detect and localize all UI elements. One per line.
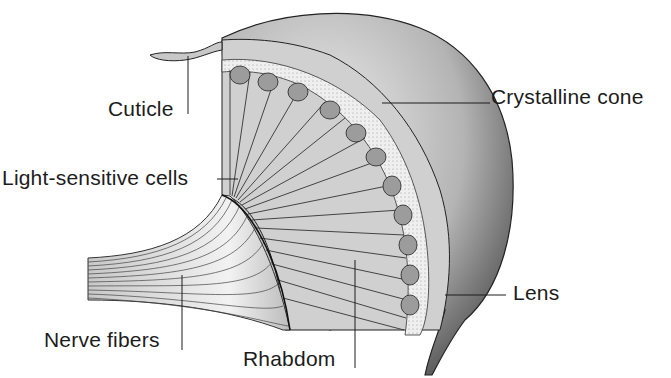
- label-crystalline-cone: Crystalline cone: [491, 86, 644, 107]
- eye-illustration: [0, 0, 671, 378]
- label-rhabdom: Rhabdom: [243, 348, 335, 369]
- label-light-sensitive-cells: Light-sensitive cells: [2, 167, 188, 188]
- compound-eye-diagram: Cuticle Light-sensitive cells Crystallin…: [0, 0, 671, 378]
- label-lens: Lens: [513, 282, 559, 303]
- label-cuticle: Cuticle: [108, 98, 174, 119]
- cuticle-flap: [150, 42, 222, 61]
- label-nerve-fibers: Nerve fibers: [44, 329, 160, 350]
